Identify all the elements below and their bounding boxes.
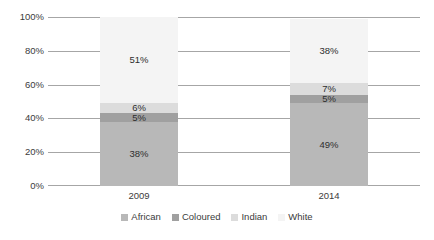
bar-segment-label: 6%: [132, 103, 146, 113]
legend-label: African: [131, 212, 161, 222]
bar-segment-label: 5%: [132, 113, 146, 123]
legend-swatch-icon: [231, 214, 238, 221]
legend-swatch-icon: [172, 214, 179, 221]
y-axis-tick-label: 60%: [2, 80, 44, 90]
bar-segment-label: 38%: [129, 149, 148, 159]
bar-segment-label: 7%: [322, 84, 336, 94]
bar-segment-indian[interactable]: 7%: [290, 83, 368, 95]
y-axis-tick-label: 80%: [2, 46, 44, 56]
x-axis-category-label: 2014: [290, 190, 368, 202]
plot-area: 38% 5% 6% 51% 49% 5% 7% 38%: [48, 17, 420, 186]
bar-segment-label: 38%: [319, 46, 338, 56]
y-axis-tick-label: 100%: [2, 12, 44, 22]
bar-segment-white[interactable]: 51%: [100, 17, 178, 103]
y-axis: 0% 20% 40% 60% 80% 100%: [0, 17, 44, 186]
y-axis-tick-label: 40%: [2, 113, 44, 123]
legend-item-white[interactable]: White: [278, 212, 312, 222]
bar-segment-african[interactable]: 38%: [100, 122, 178, 186]
legend-item-coloured[interactable]: Coloured: [172, 212, 221, 222]
legend-swatch-icon: [278, 214, 285, 221]
legend-label: White: [288, 212, 312, 222]
bar-segment-coloured[interactable]: 5%: [100, 113, 178, 121]
bar-segment-label: 5%: [322, 94, 336, 104]
bar-segment-label: 49%: [319, 140, 338, 150]
legend-item-indian[interactable]: Indian: [231, 212, 267, 222]
legend-swatch-icon: [121, 214, 128, 221]
x-axis: 2009 2014: [48, 188, 420, 204]
y-axis-tick-label: 0%: [2, 181, 44, 191]
legend-item-african[interactable]: African: [121, 212, 161, 222]
y-axis-tick-label: 20%: [2, 147, 44, 157]
bar-segment-label: 51%: [129, 55, 148, 65]
bar-2009[interactable]: 38% 5% 6% 51%: [100, 17, 178, 186]
bar-segment-african[interactable]: 49%: [290, 103, 368, 186]
legend: African Coloured Indian White: [0, 212, 434, 222]
bar-2014[interactable]: 49% 5% 7% 38%: [290, 17, 368, 186]
legend-label: Indian: [241, 212, 267, 222]
x-axis-category-label: 2009: [100, 190, 178, 202]
legend-label: Coloured: [182, 212, 221, 222]
bar-segment-coloured[interactable]: 5%: [290, 95, 368, 103]
bar-segment-white[interactable]: 38%: [290, 19, 368, 83]
stacked-bar-chart: 0% 20% 40% 60% 80% 100% 38% 5% 6% 51%: [0, 0, 434, 240]
bar-segment-indian[interactable]: 6%: [100, 103, 178, 113]
